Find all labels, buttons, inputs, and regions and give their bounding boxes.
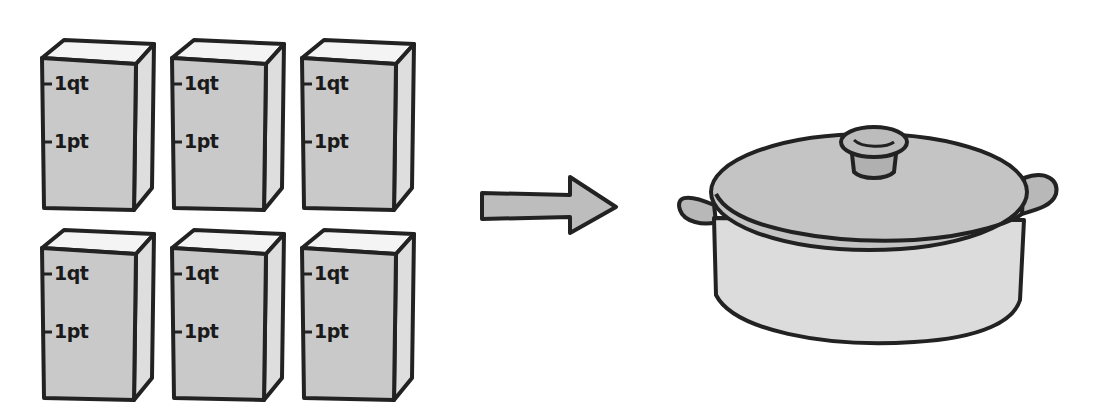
carton-icon [296,228,421,408]
quart-carton-2: 1qt 1pt [166,38,284,223]
quart-carton-4: 1qt 1pt [36,228,154,413]
carton-icon [36,38,161,218]
right-arrow-icon [478,173,623,242]
carton-icon [296,38,421,218]
quart-mark-label: 1qt [184,262,218,284]
quart-carton-5: 1qt 1pt [166,228,284,413]
pint-mark-label: 1pt [54,130,88,152]
cooking-pot-icon [674,110,1064,364]
quart-mark-label: 1qt [314,262,348,284]
quart-mark-label: 1qt [54,262,88,284]
pint-mark-label: 1pt [184,130,218,152]
quart-mark-label: 1qt [54,72,88,94]
quart-mark-label: 1qt [184,72,218,94]
carton-icon [36,228,161,408]
pint-mark-label: 1pt [314,130,348,152]
carton-icon [166,38,291,218]
pint-mark-label: 1pt [314,320,348,342]
quart-carton-1: 1qt 1pt [36,38,154,223]
quart-carton-3: 1qt 1pt [296,38,414,223]
carton-icon [166,228,291,408]
pint-mark-label: 1pt [54,320,88,342]
quart-carton-6: 1qt 1pt [296,228,414,413]
pint-mark-label: 1pt [184,320,218,342]
quart-mark-label: 1qt [314,72,348,94]
